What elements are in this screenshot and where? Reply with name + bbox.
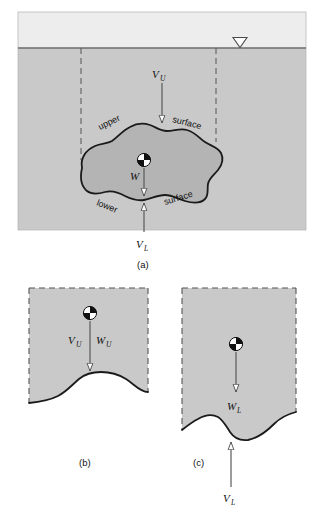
figure-root: V U W V L upper surface lower surface (a… [0, 0, 324, 512]
air-region [18, 12, 306, 48]
center-of-gravity-symbol-c [229, 337, 242, 350]
center-of-gravity-symbol-a [137, 153, 150, 166]
panel-a: V U W V L upper surface lower surface (a… [18, 12, 306, 270]
force-label-vl-c-sub: L [230, 498, 235, 507]
force-label-w-a: W [130, 170, 140, 182]
force-label-wl-c: W [227, 400, 237, 412]
force-label-vl-c: V [223, 492, 231, 504]
force-label-wu-b-sub: U [106, 340, 112, 349]
caption-a: (a) [137, 259, 149, 270]
force-label-wl-c-sub: L [236, 406, 241, 415]
force-label-vl-a: V [136, 238, 144, 250]
caption-b: (b) [79, 457, 91, 468]
force-label-vu-a-sub: U [160, 74, 166, 83]
caption-c: (c) [193, 457, 204, 468]
force-label-vu-b-sub: U [76, 340, 82, 349]
force-label-vl-a-sub: L [143, 244, 148, 253]
center-of-gravity-symbol-b [83, 306, 96, 319]
force-label-wu-b: W [96, 334, 106, 346]
panel-b: V U W U (b) [25, 284, 155, 468]
panel-c: W L V L (c) [178, 284, 302, 507]
